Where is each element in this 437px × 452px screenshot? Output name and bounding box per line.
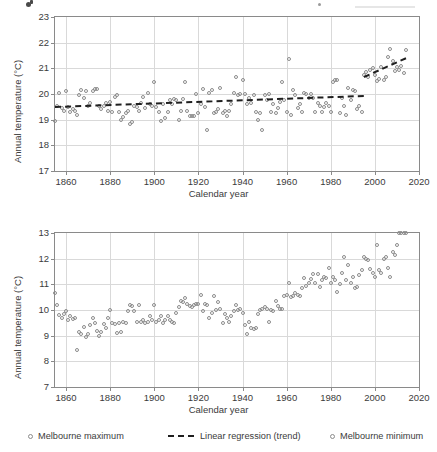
data-point: [146, 91, 150, 95]
data-point: [163, 318, 167, 322]
data-point: [137, 109, 141, 113]
data-point: [84, 89, 88, 93]
data-point: [201, 87, 205, 91]
data-point: [393, 69, 397, 73]
data-point: [243, 92, 247, 96]
data-point: [64, 89, 68, 93]
gridline-vertical: [287, 17, 288, 171]
y-axis-tick: [51, 284, 55, 285]
gridline-vertical: [331, 17, 332, 171]
data-point: [285, 110, 289, 114]
data-point: [252, 93, 256, 97]
x-axis-tick: [110, 171, 111, 175]
data-point: [346, 263, 350, 267]
data-point: [124, 321, 128, 325]
data-point: [327, 104, 331, 108]
data-point: [291, 88, 295, 92]
x-axis-tick: [331, 387, 332, 391]
data-point: [338, 111, 342, 115]
legend-item[interactable]: Linear regression (trend): [168, 431, 301, 441]
open-circle-icon: [28, 434, 33, 439]
y-axis-tick-label: 18: [38, 141, 49, 151]
data-point: [256, 312, 260, 316]
data-point: [247, 320, 251, 324]
y-axis-tick-label: 22: [38, 38, 49, 48]
x-axis-tick: [287, 387, 288, 391]
x-axis-tick-label: 1940: [232, 177, 253, 187]
data-point: [366, 258, 370, 262]
data-point: [88, 323, 92, 327]
data-point: [106, 109, 110, 113]
data-point: [66, 318, 70, 322]
data-point: [157, 110, 161, 114]
data-point: [320, 278, 324, 282]
data-point: [232, 91, 236, 95]
data-point: [287, 281, 291, 285]
y-axis-tick: [51, 17, 55, 18]
data-point: [254, 326, 258, 330]
data-point: [113, 322, 117, 326]
data-point: [335, 290, 339, 294]
y-axis-tick: [51, 387, 55, 388]
chart-legend: Melbourne maximumLinear regression (tren…: [0, 428, 437, 444]
data-point: [324, 276, 328, 280]
x-axis-tick-label: 1920: [188, 393, 209, 403]
gridline-vertical: [110, 17, 111, 171]
data-point: [322, 105, 326, 109]
legend-label: Melbourne maximum: [38, 431, 124, 441]
data-point: [386, 266, 390, 270]
data-point: [241, 78, 245, 82]
data-point: [53, 291, 57, 295]
data-point: [177, 118, 181, 122]
x-axis-tick: [419, 171, 420, 175]
data-point: [285, 293, 289, 297]
x-axis-tick: [375, 387, 376, 391]
data-point: [110, 110, 114, 114]
data-point: [307, 281, 311, 285]
data-point: [130, 304, 134, 308]
data-point: [221, 321, 225, 325]
data-point: [388, 275, 392, 279]
data-point: [82, 96, 86, 100]
data-point: [62, 109, 66, 113]
x-axis-tick-label: 1940: [232, 393, 253, 403]
data-point: [95, 87, 99, 91]
x-axis-tick-label: 2000: [364, 177, 385, 187]
y-axis-title-top: Annual temperature (°C): [12, 60, 23, 163]
data-point: [313, 110, 317, 114]
y-axis-tick: [51, 233, 55, 234]
data-point: [404, 48, 408, 52]
x-axis-tick: [198, 171, 199, 175]
data-point: [280, 80, 284, 84]
data-point: [104, 326, 108, 330]
data-point: [216, 107, 220, 111]
x-axis-tick: [66, 387, 67, 391]
data-point: [95, 329, 99, 333]
data-point: [227, 320, 231, 324]
y-axis-tick-label: 13: [38, 228, 49, 238]
data-point: [79, 88, 83, 92]
data-point: [349, 281, 353, 285]
data-point: [245, 102, 249, 106]
data-point: [126, 109, 130, 113]
data-point: [199, 102, 203, 106]
y-axis-tick-label: 17: [38, 166, 49, 176]
data-point: [115, 93, 119, 97]
y-axis-tick-label: 12: [38, 254, 49, 264]
data-point: [143, 106, 147, 110]
y-axis-tick-label: 9: [44, 331, 49, 341]
dashed-line-icon: [168, 435, 194, 437]
legend-item[interactable]: Melbourne maximum: [28, 431, 124, 441]
data-point: [60, 316, 64, 320]
data-point: [82, 325, 86, 329]
data-point: [274, 111, 278, 115]
x-axis-tick-label: 2000: [364, 393, 385, 403]
data-point: [267, 92, 271, 96]
figure-sheet: Annual temperature (°C) 1718192021222318…: [0, 0, 437, 452]
data-point: [386, 55, 390, 59]
legend-item[interactable]: Melbourne minimum: [330, 431, 423, 441]
data-point: [342, 104, 346, 108]
gridline-vertical: [375, 17, 376, 171]
y-axis-tick: [51, 94, 55, 95]
data-point: [192, 114, 196, 118]
